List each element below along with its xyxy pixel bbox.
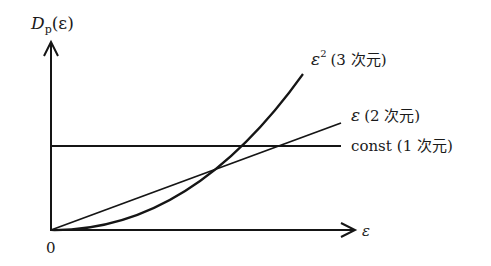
origin-label: 0: [46, 239, 56, 257]
density-of-states-diagram: Dp(ε) ε 0 ε2(3 次元) ε(2 次元) const(1 次元): [0, 0, 491, 266]
linear-label: ε(2 次元): [351, 105, 420, 125]
y-axis-label: Dp(ε): [30, 13, 74, 36]
const-label: const(1 次元): [351, 137, 453, 155]
x-axis: [51, 223, 355, 237]
parabola-label: ε2(3 次元): [311, 48, 387, 69]
parabola-curve: [51, 74, 303, 230]
linear-curve: [51, 123, 341, 230]
x-axis-label: ε: [362, 222, 370, 240]
y-axis: [44, 42, 58, 231]
